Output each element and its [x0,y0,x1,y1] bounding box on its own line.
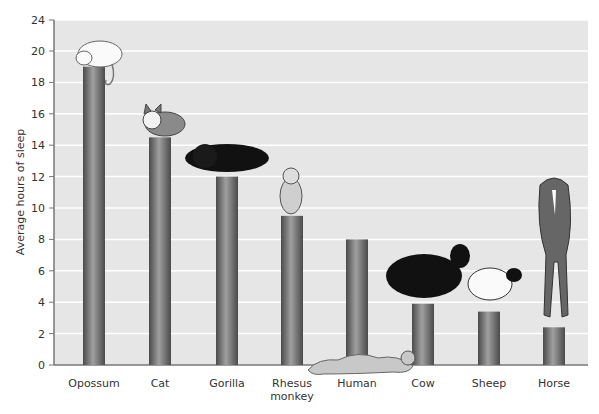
rhesus-monkey-icon [280,168,302,214]
bar-rhesus-monkey [281,216,303,365]
x-tick-label: Opossum [68,377,120,390]
bar-cow [412,304,434,365]
gorilla-icon [185,144,269,172]
x-tick-label: Horse [538,377,570,390]
y-tick-label: 10 [31,202,45,215]
y-tick-label: 4 [38,296,45,309]
y-tick-label: 18 [31,76,45,89]
y-tick-label: 20 [31,45,45,58]
y-axis-title: Average hours of sleep [14,129,27,256]
bar-chart: 0246810121416182024 OpossumCatGorillaRhe… [0,0,599,414]
x-tick-label: monkey [270,390,314,403]
y-tick-label: 12 [31,171,45,184]
x-tick-label: Sheep [472,377,506,390]
bar-gorilla [216,177,238,365]
x-tick-label: Cow [411,377,434,390]
x-tick-label: Cat [151,377,170,390]
bar-opossum [83,67,105,365]
y-tick-label: 14 [31,139,45,152]
y-tick-label: 16 [31,108,45,121]
y-tick-label: 2 [38,328,45,341]
x-tick-label: Gorilla [209,377,245,390]
x-tick-labels: OpossumCatGorillaRhesusmonkeyHumanCowShe… [68,377,570,403]
y-tick-label: 24 [31,14,45,27]
x-tick-label: Human [337,377,377,390]
plot-area [54,20,588,365]
x-tick-label: Rhesus [272,377,312,390]
y-tick-label: 6 [38,265,45,278]
bar-human [346,239,368,365]
bar-sheep [478,312,500,365]
y-tick-label: 0 [38,359,45,372]
y-tick-labels: 0246810121416182024 [31,14,54,372]
bar-horse [543,327,565,365]
bar-cat [149,137,171,365]
y-tick-label: 8 [38,233,45,246]
